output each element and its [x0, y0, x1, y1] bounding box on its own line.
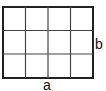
label-a: a: [43, 78, 51, 91]
label-b: b: [95, 37, 103, 51]
grid-rectangle: [0, 0, 106, 91]
